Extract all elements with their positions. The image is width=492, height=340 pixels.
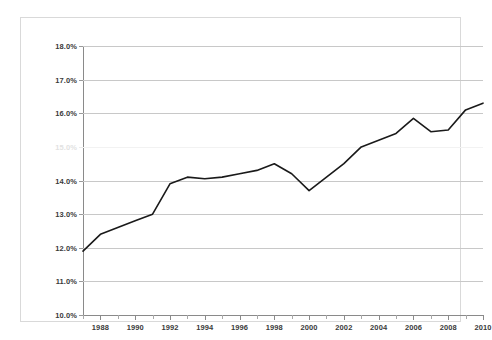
x-axis-label: 2002	[335, 323, 352, 332]
x-tick-2000	[309, 315, 310, 320]
y-axis-label: 14.0%	[55, 176, 77, 185]
y-axis-label: 15.0%	[55, 142, 77, 151]
x-tick-minor-1991	[153, 315, 154, 319]
x-tick-1992	[170, 315, 171, 320]
y-axis-label: 18.0%	[55, 42, 77, 51]
y-axis-label: 10.0%	[55, 311, 77, 320]
x-axis-label: 1992	[161, 323, 178, 332]
x-tick-1994	[205, 315, 206, 320]
y-axis-label: 13.0%	[55, 210, 77, 219]
x-axis-label: 2006	[405, 323, 422, 332]
plot-area: 18.0%17.0%16.0%15.0%14.0%13.0%12.0%11.0%…	[83, 46, 483, 315]
y-axis-label: 12.0%	[55, 243, 77, 252]
x-tick-minor-1999	[292, 315, 293, 319]
y-axis-label: 17.0%	[55, 75, 77, 84]
x-axis-label: 1988	[92, 323, 109, 332]
x-tick-1998	[274, 315, 275, 320]
y-axis-label: 16.0%	[55, 109, 77, 118]
x-tick-minor-1987	[83, 315, 84, 319]
x-tick-1990	[135, 315, 136, 320]
x-tick-minor-2007	[431, 315, 432, 319]
x-tick-1988	[100, 315, 101, 320]
x-tick-minor-1989	[118, 315, 119, 319]
series-line-chart	[83, 46, 483, 315]
x-tick-2006	[413, 315, 414, 320]
x-tick-minor-2009	[466, 315, 467, 319]
x-tick-minor-2003	[361, 315, 362, 319]
y-axis-label: 11.0%	[56, 277, 77, 286]
x-tick-2004	[379, 315, 380, 320]
x-axis-label: 1990	[127, 323, 144, 332]
x-tick-2010	[483, 315, 484, 320]
x-axis-label: 2004	[370, 323, 387, 332]
x-tick-minor-1995	[222, 315, 223, 319]
x-tick-1996	[240, 315, 241, 320]
x-tick-2008	[448, 315, 449, 320]
chart-frame: 18.0%17.0%16.0%15.0%14.0%13.0%12.0%11.0%…	[20, 17, 461, 322]
x-axis-label: 2008	[440, 323, 457, 332]
gridline-y-10	[83, 315, 483, 316]
x-tick-minor-1993	[187, 315, 188, 319]
x-tick-2002	[344, 315, 345, 320]
x-tick-minor-2005	[396, 315, 397, 319]
series-line-path	[83, 103, 483, 251]
x-axis-label: 1994	[196, 323, 213, 332]
x-axis-label: 2010	[474, 323, 491, 332]
x-axis-label: 2000	[301, 323, 318, 332]
x-tick-minor-1997	[257, 315, 258, 319]
x-tick-minor-2001	[326, 315, 327, 319]
x-axis-label: 1998	[266, 323, 283, 332]
x-axis-label: 1996	[231, 323, 248, 332]
